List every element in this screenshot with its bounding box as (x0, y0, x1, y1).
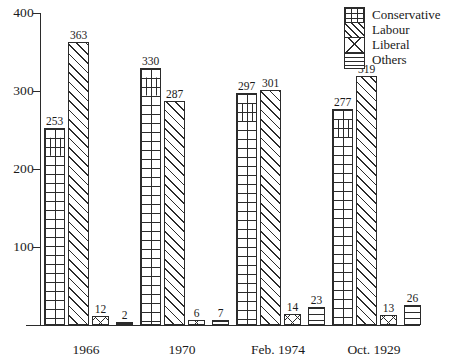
y-tick-label-200: 200 (0, 162, 34, 176)
bar-oct1929-conservative[interactable]: 277 (332, 109, 353, 325)
y-tick-label-400: 400 (0, 6, 34, 20)
bar-value-label: 297 (238, 80, 255, 92)
y-tick-mark-300 (33, 91, 40, 92)
bar-value-label: 12 (95, 303, 107, 315)
legend-swatch-liberal (345, 38, 364, 53)
bar-value-label: 13 (383, 302, 395, 314)
bar-value-label: 23 (311, 294, 323, 306)
y-tick-label-300: 300 (0, 84, 34, 98)
bar-oct1929-labour[interactable]: 319 (356, 76, 377, 325)
bar-1966-labour[interactable]: 363 (68, 42, 89, 325)
x-axis-label-oct-1929: Oct. 1929 (332, 342, 416, 357)
legend-label-column: Conservative Labour Liberal Others (372, 7, 441, 67)
bar-oct1929-liberal[interactable]: 13 (380, 315, 397, 325)
bar-1966-liberal[interactable]: 12 (92, 316, 109, 325)
legend: Conservative Labour Liberal Others (344, 7, 441, 69)
bar-value-label: 14 (287, 301, 299, 313)
bar-value-label: 363 (70, 29, 87, 41)
bar-feb1974-labour[interactable]: 301 (260, 90, 281, 325)
bar-value-label: 6 (194, 307, 200, 319)
y-tick-mark-100 (33, 247, 40, 248)
x-axis-label-feb-1974: Feb. 1974 (236, 342, 320, 357)
x-axis-label-1966: 1966 (50, 342, 122, 357)
bar-feb1974-liberal[interactable]: 14 (284, 314, 301, 325)
bar-value-label: 287 (166, 88, 183, 100)
bar-value-label: 277 (334, 96, 351, 108)
bar-group-1966: 253 363 12 2 1966 (40, 13, 132, 325)
legend-swatch-conservative (345, 8, 364, 23)
bar-value-label: 2 (122, 309, 128, 321)
bar-value-label: 26 (407, 292, 419, 304)
bar-group-1970: 330 287 6 7 1970 (136, 13, 228, 325)
legend-label-labour: Labour (372, 22, 441, 37)
x-axis-label-1970: 1970 (146, 342, 218, 357)
bar-1970-liberal[interactable]: 6 (188, 320, 205, 325)
y-tick-label-100: 100 (0, 240, 34, 254)
legend-label-liberal: Liberal (372, 37, 441, 52)
bar-feb1974-conservative[interactable]: 297 (236, 93, 257, 325)
bar-value-label: 330 (142, 55, 159, 67)
bar-1970-labour[interactable]: 287 (164, 101, 185, 325)
x-axis-line (26, 325, 420, 326)
legend-label-others: Others (372, 52, 441, 67)
bar-1966-conservative[interactable]: 253 (44, 128, 65, 325)
bar-value-label: 253 (46, 115, 63, 127)
bar-value-label: 301 (262, 77, 279, 89)
y-tick-mark-200 (33, 169, 40, 170)
bar-oct1929-others[interactable]: 26 (404, 305, 421, 325)
chart-root: 400 300 200 100 253 363 (0, 0, 454, 361)
bar-1966-others[interactable]: 2 (116, 322, 133, 325)
legend-swatch-others (345, 53, 364, 68)
legend-swatch-column (344, 7, 365, 69)
bar-1970-conservative[interactable]: 330 (140, 68, 161, 325)
y-tick-mark-400 (33, 13, 40, 14)
bar-feb1974-others[interactable]: 23 (308, 307, 325, 325)
legend-label-conservative: Conservative (372, 7, 441, 22)
bar-group-feb-1974: 297 301 14 23 Feb. 1974 (232, 13, 324, 325)
bar-value-label: 7 (218, 307, 224, 319)
legend-swatch-labour (345, 23, 364, 38)
bar-1970-others[interactable]: 7 (212, 320, 229, 326)
